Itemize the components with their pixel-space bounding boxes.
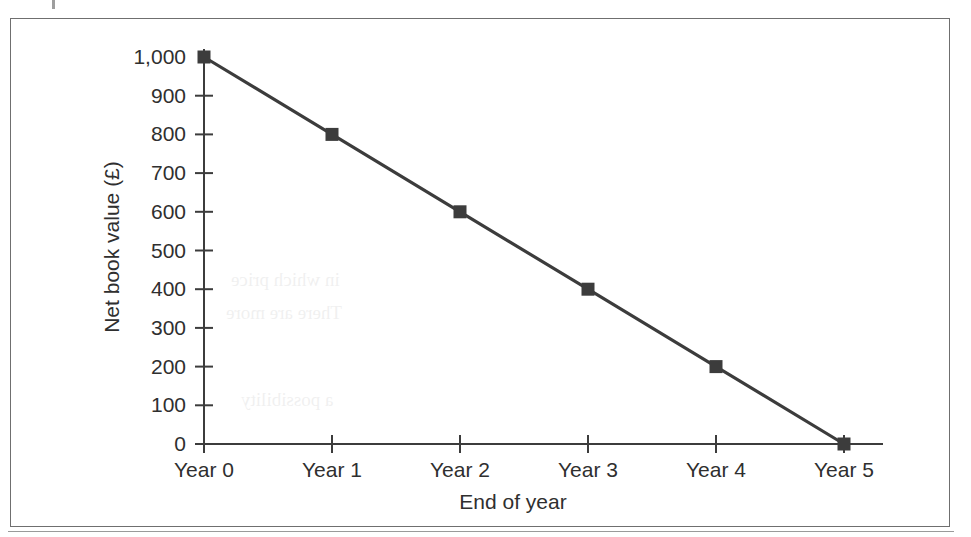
data-point-year-0 (198, 51, 211, 64)
y-tick-label-700: 700 (151, 161, 186, 184)
figure-frame: in which price There are more a possibil… (10, 18, 950, 527)
y-tick-label-500: 500 (151, 239, 186, 262)
x-axis-label-year-3: Year 3 (558, 458, 618, 481)
x-axis-label-year-5: Year 5 (814, 458, 874, 481)
scan-artifact-speck (52, 0, 55, 9)
data-point-year-3 (582, 283, 595, 296)
data-point-year-1 (326, 128, 339, 141)
page-bottom-rule (8, 531, 954, 532)
x-axis-label-year-0: Year 0 (174, 458, 234, 481)
y-tick-label-300: 300 (151, 316, 186, 339)
x-axis-category-labels: Year 0Year 1Year 2Year 3Year 4Year 5 (174, 458, 874, 481)
y-tick-label-1000: 1,000 (133, 45, 186, 68)
y-tick-label-100: 100 (151, 393, 186, 416)
series-line-net-book-value (204, 57, 844, 444)
data-point-year-4 (710, 360, 723, 373)
y-tick-label-0: 0 (174, 432, 186, 455)
y-tick-label-400: 400 (151, 277, 186, 300)
y-tick-label-600: 600 (151, 200, 186, 223)
y-tick-label-900: 900 (151, 84, 186, 107)
data-point-year-5 (838, 438, 851, 451)
y-tick-label-200: 200 (151, 355, 186, 378)
net-book-value-line-chart: 1,0009008007006005004003002001000 Year 0… (11, 19, 951, 528)
x-axis-label-year-1: Year 1 (302, 458, 362, 481)
y-axis-title: Net book value (£) (100, 161, 123, 333)
y-axis-tick-labels: 1,0009008007006005004003002001000 (133, 45, 186, 455)
scanned-page: in which price There are more a possibil… (0, 0, 971, 537)
y-tick-label-800: 800 (151, 122, 186, 145)
x-axis-label-year-4: Year 4 (686, 458, 746, 481)
x-axis-label-year-2: Year 2 (430, 458, 490, 481)
data-point-year-2 (454, 205, 467, 218)
x-axis-title: End of year (459, 490, 566, 513)
